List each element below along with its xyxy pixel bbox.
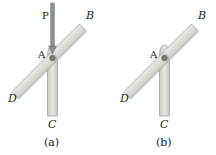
label-b: B xyxy=(197,9,206,22)
caption-a: (a) xyxy=(44,136,59,149)
label-a: A xyxy=(149,49,158,60)
label-p: P xyxy=(42,10,49,21)
pin-a xyxy=(50,55,56,61)
label-b: B xyxy=(85,9,94,22)
force-rod-p xyxy=(49,3,57,54)
caption-b: (b) xyxy=(156,136,172,149)
panel-a: P B A D C (a) xyxy=(7,3,94,149)
pin-a xyxy=(162,55,168,61)
label-a: A xyxy=(37,49,46,60)
label-d: D xyxy=(119,92,129,105)
label-c: C xyxy=(160,118,169,131)
label-d: D xyxy=(7,92,17,105)
label-c: C xyxy=(48,118,57,131)
panel-b: B A D C (b) xyxy=(119,9,206,149)
figure-canvas: P B A D C (a) B A D C (b) xyxy=(0,0,216,155)
